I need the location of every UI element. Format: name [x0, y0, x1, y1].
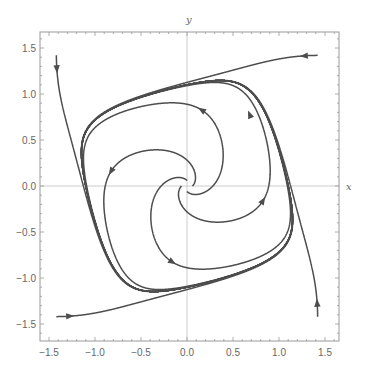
y-tick-label: 1.5: [22, 43, 36, 54]
x-axis-label: x: [346, 181, 352, 192]
trajectory-outer-top-left: [56, 55, 292, 291]
y-tick-label: 0.5: [22, 135, 36, 146]
phase-portrait-chart: −1.5−1.0−0.50.00.51.01.51.51.00.50.0−0.5…: [0, 0, 366, 371]
x-tick-label: 1.5: [318, 347, 332, 358]
y-tick-label: −1.5: [16, 319, 36, 330]
x-tick-label: 1.0: [272, 347, 286, 358]
trajectory-outer-bottom-right: [81, 80, 317, 316]
arrow-icon: [300, 52, 308, 59]
y-tick-label: 0.0: [22, 181, 36, 192]
arrow-icon: [314, 299, 321, 307]
x-tick-label: −0.5: [131, 347, 151, 358]
arrow-icon: [53, 65, 60, 73]
y-axis-label: y: [185, 14, 192, 25]
axes: [40, 32, 339, 341]
limit-cycle-arrow-icon: [245, 109, 254, 119]
x-tick-label: −1.5: [39, 347, 59, 358]
y-tick-label: −1.0: [16, 273, 36, 284]
x-tick-label: 0.0: [180, 347, 194, 358]
y-tick-label: −0.5: [16, 227, 36, 238]
x-tick-label: 0.5: [226, 347, 240, 358]
tick-labels: −1.5−1.0−0.50.00.51.01.51.51.00.50.0−0.5…: [16, 43, 332, 359]
y-tick-label: 1.0: [22, 89, 36, 100]
x-tick-label: −1.0: [85, 347, 105, 358]
trajectory-outer-bottom-left: [56, 80, 292, 316]
arrow-icon: [66, 313, 74, 320]
trajectory-outer-top-right: [81, 55, 317, 291]
